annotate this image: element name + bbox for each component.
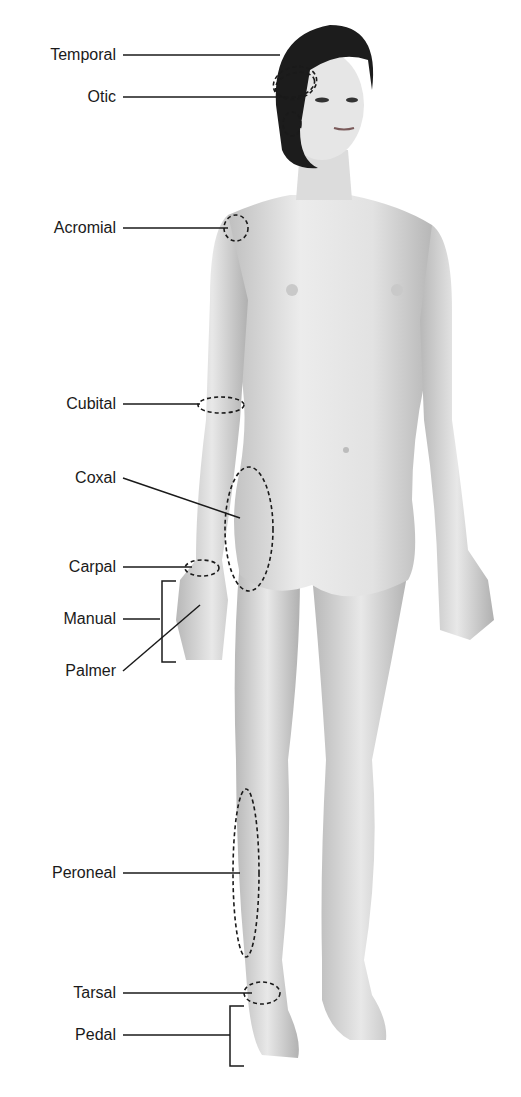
left-arm xyxy=(420,225,494,640)
label-acromial: Acromial xyxy=(0,219,116,237)
label-pedal: Pedal xyxy=(0,1026,116,1044)
label-temporal: Temporal xyxy=(0,46,116,64)
label-palmer: Palmer xyxy=(0,662,116,680)
right-leg xyxy=(235,560,300,1058)
label-otic: Otic xyxy=(0,88,116,106)
label-coxal: Coxal xyxy=(0,469,116,487)
anatomy-diagram: Temporal Otic Acromial Cubital Coxal Car… xyxy=(0,0,521,1097)
label-carpal: Carpal xyxy=(0,558,116,576)
label-manual: Manual xyxy=(0,610,116,628)
label-tarsal: Tarsal xyxy=(0,984,116,1002)
left-leg xyxy=(312,560,410,1040)
label-cubital: Cubital xyxy=(0,395,116,413)
right-arm xyxy=(176,215,248,660)
torso xyxy=(228,195,435,596)
body-illustration xyxy=(0,0,521,1097)
label-peroneal: Peroneal xyxy=(0,864,116,882)
